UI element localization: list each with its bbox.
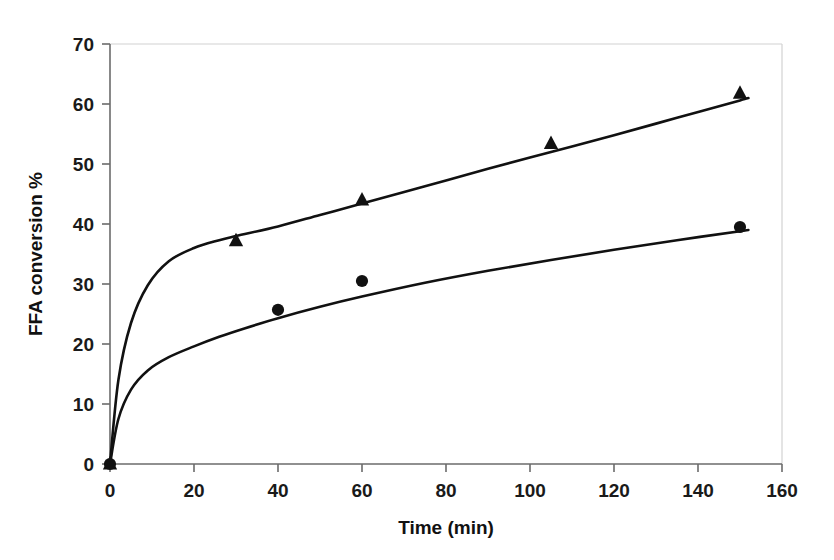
data-marker-circle — [104, 458, 116, 470]
data-marker-circle — [272, 304, 284, 316]
x-tick-label: 20 — [183, 480, 204, 501]
y-axis-tick-labels: 010203040506070 — [73, 34, 94, 475]
y-tick-label: 50 — [73, 154, 94, 175]
data-marker-triangle — [544, 136, 558, 150]
y-tick-label: 30 — [73, 274, 94, 295]
chart-canvas: 010203040506070 020406080100120140160 Ti… — [0, 0, 834, 560]
series-1 — [103, 85, 749, 469]
plot-frame — [110, 44, 782, 464]
data-marker-triangle — [733, 85, 747, 99]
x-axis-tick-labels: 020406080100120140160 — [105, 480, 798, 501]
y-tick-label: 60 — [73, 94, 94, 115]
y-axis-ticks — [102, 44, 110, 464]
y-tick-label: 40 — [73, 214, 94, 235]
y-tick-label: 10 — [73, 394, 94, 415]
y-tick-label: 0 — [83, 454, 94, 475]
x-axis-title: Time (min) — [398, 517, 494, 538]
chart-figure: 010203040506070 020406080100120140160 Ti… — [0, 0, 834, 560]
x-tick-label: 80 — [435, 480, 456, 501]
y-axis-title: FFA conversion % — [25, 172, 46, 336]
y-tick-label: 20 — [73, 334, 94, 355]
x-tick-label: 0 — [105, 480, 116, 501]
x-axis-ticks — [110, 464, 782, 472]
data-series-layer — [103, 85, 749, 470]
data-marker-circle — [356, 275, 368, 287]
y-tick-label: 70 — [73, 34, 94, 55]
x-tick-label: 100 — [514, 480, 546, 501]
data-marker-circle — [734, 221, 746, 233]
series-2 — [104, 221, 749, 470]
x-tick-label: 160 — [766, 480, 798, 501]
data-marker-triangle — [355, 192, 369, 206]
series-curve-circle — [110, 230, 748, 464]
x-tick-label: 120 — [598, 480, 630, 501]
axes-group — [102, 44, 782, 472]
x-tick-label: 40 — [267, 480, 288, 501]
x-tick-label: 140 — [682, 480, 714, 501]
x-tick-label: 60 — [351, 480, 372, 501]
